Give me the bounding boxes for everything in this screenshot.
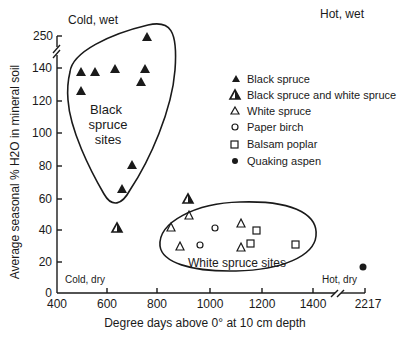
legend-marker-black-spruce xyxy=(232,75,240,82)
legend-label: Balsam poplar xyxy=(247,138,318,150)
y-axis-title: Average seasonal % H2O in mineral soil xyxy=(8,65,22,280)
y-tick-labels: 0 20 40 60 80 100 120 140 250 xyxy=(32,29,53,300)
x-tick: 1200 xyxy=(249,297,276,311)
x-axis xyxy=(57,288,365,297)
data-point xyxy=(237,219,245,227)
svg-text:spruce: spruce xyxy=(88,117,127,132)
series-balsam-poplar xyxy=(247,227,299,248)
legend-label: Quaking aspen xyxy=(247,155,321,167)
data-point xyxy=(76,86,86,95)
data-point xyxy=(197,242,203,248)
x-tick: 400 xyxy=(47,297,67,311)
quadrant-label-hot-dry: Hot, dry xyxy=(322,274,357,285)
y-tick: 120 xyxy=(32,94,52,108)
y-tick: 140 xyxy=(32,61,52,75)
data-point xyxy=(212,225,218,231)
x-tick: 1000 xyxy=(197,297,224,311)
y-tick: 80 xyxy=(39,159,53,173)
data-point xyxy=(253,227,260,234)
legend-label: Black spruce and white spruce xyxy=(247,89,396,101)
black-spruce-region-label: Black spruce sites xyxy=(88,102,127,147)
legend-marker-white-spruce xyxy=(231,107,239,114)
legend-label: White spruce xyxy=(247,105,311,117)
quadrant-label-cold-dry: Cold, dry xyxy=(65,274,105,285)
data-point xyxy=(176,242,184,250)
data-point xyxy=(117,184,127,193)
data-point xyxy=(292,241,299,248)
data-point xyxy=(142,32,152,41)
y-axis xyxy=(53,36,62,293)
x-tick: 800 xyxy=(147,297,167,311)
y-tick: 20 xyxy=(39,255,53,269)
data-point xyxy=(167,223,175,231)
series-paper-birch xyxy=(197,225,218,248)
data-point xyxy=(185,211,193,219)
data-point xyxy=(247,240,254,247)
legend-marker-balsam-poplar xyxy=(231,141,238,148)
y-tick: 250 xyxy=(33,29,53,43)
x-axis-title: Degree days above 0° at 10 cm depth xyxy=(104,316,306,330)
scatter-chart: 0 20 40 60 80 100 120 140 250 400 600 80… xyxy=(0,0,398,339)
x-tick: 600 xyxy=(97,297,117,311)
y-tick: 100 xyxy=(32,126,52,140)
data-point xyxy=(110,64,120,73)
svg-text:sites: sites xyxy=(95,132,122,147)
data-point xyxy=(127,160,137,169)
x-tick-labels: 400 600 800 1000 1200 1400 2217 xyxy=(47,297,382,311)
data-point xyxy=(76,67,86,76)
svg-text:Black: Black xyxy=(90,102,122,117)
legend-marker-paper-birch xyxy=(232,124,238,130)
x-tick: 1400 xyxy=(300,297,327,311)
legend-marker-quaking-aspen xyxy=(232,158,238,164)
data-point xyxy=(140,64,150,73)
y-tick: 40 xyxy=(39,223,53,237)
data-point xyxy=(90,67,100,76)
legend-label: Paper birch xyxy=(247,121,303,133)
quadrant-label-hot-wet: Hot, wet xyxy=(320,7,365,21)
white-spruce-region-label: White spruce sites xyxy=(188,256,286,270)
x-tick: 2217 xyxy=(355,297,382,311)
series-black-and-white-spruce xyxy=(112,194,193,232)
legend: Black spruce Black spruce and white spru… xyxy=(230,73,396,167)
data-point-quaking-aspen xyxy=(360,264,367,271)
legend-label: Black spruce xyxy=(247,73,310,85)
data-point xyxy=(136,77,146,86)
data-point xyxy=(237,243,245,251)
quadrant-label-cold-wet: Cold, wet xyxy=(68,13,119,27)
chart-container: 0 20 40 60 80 100 120 140 250 400 600 80… xyxy=(0,0,398,339)
y-tick: 60 xyxy=(39,192,53,206)
